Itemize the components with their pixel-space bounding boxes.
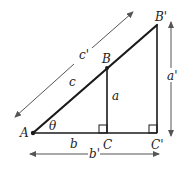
label-side-a-prime: a' <box>167 69 177 83</box>
label-side-b-prime: b' <box>89 147 100 161</box>
label-side-c: c <box>69 75 76 89</box>
vertex-a-dot <box>31 131 35 135</box>
label-b-prime-vertex: B' <box>154 10 167 24</box>
vertex-b-dot <box>105 66 109 70</box>
label-c-prime-vertex: C' <box>151 138 163 152</box>
label-side-b: b <box>70 137 78 151</box>
label-a-vertex: A <box>19 126 29 140</box>
right-angle-mark-c-prime <box>149 125 157 133</box>
label-angle-theta: θ <box>49 119 57 133</box>
label-side-a: a <box>112 89 119 103</box>
label-side-c-prime: c' <box>79 48 89 62</box>
label-c-vertex: C <box>103 138 112 152</box>
right-angle-mark-c <box>99 125 107 133</box>
hypotenuse-large <box>33 25 157 133</box>
label-b-vertex: B <box>101 52 111 66</box>
similar-triangles-diagram: A B C B' C' c c' a a' b b' θ <box>0 0 189 169</box>
